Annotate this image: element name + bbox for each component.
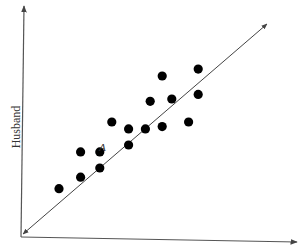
data-points [54, 65, 202, 194]
data-point [158, 71, 167, 80]
data-point [76, 173, 85, 182]
scatter-chart: Husband A [0, 0, 301, 250]
data-point [124, 140, 133, 149]
data-point [158, 122, 167, 131]
point-a-label: A [99, 141, 106, 153]
y-axis-label: Husband [9, 97, 23, 157]
data-point [167, 94, 176, 103]
data-point [194, 65, 203, 74]
data-point [194, 90, 203, 99]
data-point [76, 147, 85, 156]
plot-area [0, 0, 301, 250]
data-point [141, 124, 150, 133]
data-point [184, 117, 193, 126]
data-point [95, 163, 104, 172]
x-axis [21, 237, 297, 242]
data-point [54, 184, 63, 193]
data-point [146, 97, 155, 106]
data-point [107, 117, 116, 126]
data-point [124, 124, 133, 133]
